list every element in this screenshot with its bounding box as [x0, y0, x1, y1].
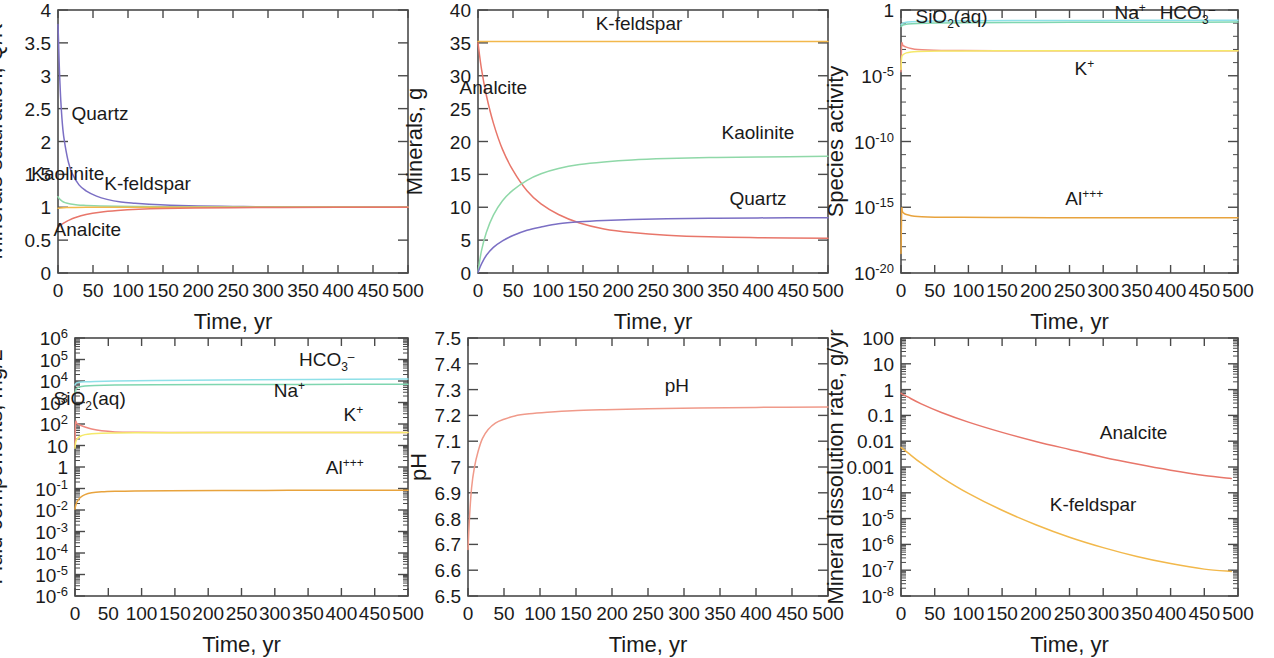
x-tick-label: 150: [986, 603, 1018, 624]
y-tick-label: 10-3: [35, 520, 68, 543]
series-label: Analcite: [54, 219, 122, 240]
y-tick-label: 10-6: [35, 584, 68, 607]
y-tick-label: 10-6: [861, 532, 894, 555]
y-tick-label: 10: [873, 354, 894, 375]
x-tick-label: 450: [777, 280, 809, 301]
x-tick-label: 450: [359, 603, 391, 624]
y-tick-label: 10-15: [854, 195, 894, 218]
series-label: Na+: [1115, 1, 1146, 23]
y-tick-label: 10-10: [854, 130, 894, 153]
y-tick-label: 0.01: [857, 431, 894, 452]
series-curve: [478, 156, 828, 271]
x-tick-label: 500: [812, 603, 844, 624]
y-tick-label: 10-4: [861, 481, 894, 504]
y-tick-label: 10: [47, 436, 68, 457]
y-tick-label: 5: [460, 230, 471, 251]
y-tick-label: 10-2: [35, 498, 68, 521]
series-label: Al+++: [1065, 187, 1103, 209]
x-tick-label: 250: [632, 603, 664, 624]
y-axis-title: Species activity: [823, 66, 848, 218]
y-tick-label: 104: [40, 369, 68, 392]
series-label: pH: [665, 375, 689, 396]
x-tick-label: 50: [924, 603, 945, 624]
series-label: Na+: [274, 379, 305, 401]
y-tick-label: 0: [460, 263, 471, 284]
x-tick-label: 400: [742, 280, 774, 301]
series-label: Kaolinite: [31, 163, 104, 184]
x-tick-label: 100: [112, 280, 144, 301]
y-tick-label: 1: [57, 457, 68, 478]
x-tick-label: 500: [392, 603, 424, 624]
x-tick-label: 250: [637, 280, 669, 301]
x-tick-label: 150: [147, 280, 179, 301]
x-tick-label: 250: [217, 280, 249, 301]
plot-frame: [478, 10, 828, 273]
series-curve: [478, 218, 828, 273]
y-tick-label: 103: [40, 391, 68, 414]
series-curve: [901, 208, 1238, 254]
x-tick-label: 150: [567, 280, 599, 301]
y-tick-label: 7.2: [435, 405, 461, 426]
y-tick-label: 7.3: [435, 380, 461, 401]
series-label: Analcite: [460, 77, 528, 98]
y-tick-label: 0: [40, 263, 51, 284]
x-tick-label: 350: [704, 603, 736, 624]
series-label: SiO2(aq): [54, 388, 126, 413]
series-curve: [901, 393, 1231, 478]
y-tick-label: 35: [450, 33, 471, 54]
x-tick-label: 100: [126, 603, 158, 624]
series-label: K+: [1074, 57, 1094, 79]
x-tick-label: 0: [896, 603, 907, 624]
x-tick-label: 300: [1087, 280, 1119, 301]
x-axis-title: Time, yr: [609, 632, 688, 657]
x-tick-label: 400: [1155, 603, 1187, 624]
y-tick-label: 10-20: [854, 261, 894, 284]
x-tick-label: 200: [192, 603, 224, 624]
y-tick-label: 7.5: [435, 328, 461, 349]
x-tick-label: 200: [602, 280, 634, 301]
x-axis-title: Time, yr: [1030, 309, 1109, 334]
x-tick-label: 0: [53, 280, 64, 301]
x-tick-label: 500: [812, 280, 844, 301]
y-tick-label: 6.5: [435, 586, 461, 607]
x-tick-label: 350: [1121, 280, 1153, 301]
x-tick-label: 350: [287, 280, 319, 301]
y-tick-label: 7.1: [435, 431, 461, 452]
y-axis-title: Fluid components, mg/L: [0, 350, 7, 585]
y-tick-label: 0.001: [846, 457, 894, 478]
x-tick-label: 350: [707, 280, 739, 301]
x-tick-label: 50: [82, 280, 103, 301]
series-curve: [901, 42, 1238, 71]
series-label: HCO3–: [1160, 2, 1216, 27]
plot-frame: [901, 338, 1238, 596]
x-tick-label: 300: [259, 603, 291, 624]
y-tick-label: 1: [883, 380, 894, 401]
series-curve: [901, 20, 1238, 25]
x-axis-title: Time, yr: [614, 309, 693, 334]
y-tick-label: 10-4: [35, 541, 68, 564]
y-tick-label: 10-7: [861, 558, 894, 581]
x-tick-label: 0: [473, 280, 484, 301]
y-axis-title: Mineral dissolution rate, g/yr: [823, 329, 848, 604]
x-axis-title: Time, yr: [1030, 632, 1109, 657]
y-tick-label: 10-8: [861, 584, 894, 607]
series-curve: [58, 207, 408, 227]
y-tick-label: 105: [40, 348, 68, 371]
y-tick-label: 7.4: [435, 354, 462, 375]
y-tick-label: 2.5: [25, 99, 51, 120]
x-axis-title: Time, yr: [202, 632, 281, 657]
y-tick-label: 1: [40, 197, 51, 218]
series-curve: [75, 421, 408, 446]
y-tick-label: 30: [450, 66, 471, 87]
x-tick-label: 300: [1087, 603, 1119, 624]
x-tick-label: 250: [1054, 603, 1086, 624]
x-tick-label: 100: [953, 280, 985, 301]
y-tick-label: 20: [450, 132, 471, 153]
x-tick-label: 250: [226, 603, 258, 624]
x-tick-label: 0: [896, 280, 907, 301]
x-tick-label: 400: [1155, 280, 1187, 301]
y-tick-label: 1: [883, 0, 894, 21]
y-tick-label: 10: [450, 197, 471, 218]
series-curve: [468, 407, 828, 550]
x-tick-label: 350: [1121, 603, 1153, 624]
